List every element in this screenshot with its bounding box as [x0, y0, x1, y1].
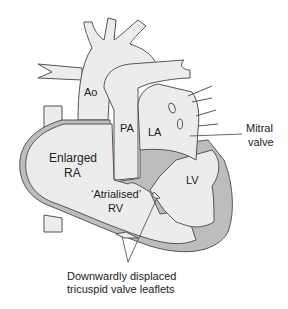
- label-pulmonary-artery: PA: [120, 122, 135, 134]
- label-mitral-line1: Mitral: [246, 122, 273, 134]
- label-mitral-line2: valve: [248, 136, 274, 148]
- label-rv-line2: RV: [108, 202, 124, 214]
- label-rv-line1: ‘Atrialised’: [91, 188, 141, 200]
- label-left-ventricle: LV: [186, 174, 199, 186]
- label-left-atrium: LA: [148, 126, 162, 138]
- label-tricuspid-line2: tricuspid valve leaflets: [67, 283, 175, 295]
- ebstein-heart-diagram: Ao PA LA LV Enlarged RA ‘Atrialised’ RV …: [0, 0, 288, 309]
- pulmonary-vein-opening: [178, 119, 183, 129]
- label-tricuspid-line1: Downwardly displaced: [67, 270, 176, 282]
- label-ra-line2: RA: [64, 166, 81, 180]
- inferior-vena-cava: [44, 215, 62, 232]
- tricuspid-leader-line-2: [122, 236, 128, 262]
- label-ra-line1: Enlarged: [49, 151, 97, 165]
- label-aorta: Ao: [84, 86, 97, 98]
- right-pulmonary-artery: [38, 64, 82, 80]
